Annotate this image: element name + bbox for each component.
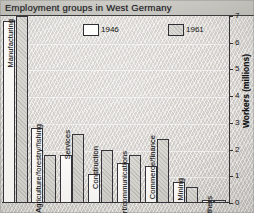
y-axis-tick-label: 5 (235, 64, 239, 73)
bar-1961-agriculture-forestry-fishing[interactable] (44, 155, 56, 203)
y-axis-tick-label: 6 (235, 38, 239, 47)
bar-1961-construction[interactable] (101, 150, 113, 203)
bar-1961-commerce-finance[interactable] (157, 139, 169, 203)
y-axis-tick (229, 69, 233, 70)
y-axis-tick (229, 43, 233, 44)
y-axis-tick (229, 176, 233, 177)
y-axis-tick (229, 16, 233, 17)
gridline (2, 43, 226, 45)
category-label-services: Services (63, 130, 72, 159)
legend-label-1961: 1961 (186, 25, 204, 34)
chart-figure: Employment groups in West Germany Worker… (0, 0, 254, 213)
category-label-commerce-finance: Commerce/finance (148, 135, 157, 199)
legend-swatch-1946 (83, 24, 99, 36)
y-axis-tick-label: 1 (235, 171, 239, 180)
chart-title: Employment groups in West Germany (5, 2, 172, 13)
category-label-transport-communications: Transport/communications (120, 151, 129, 213)
y-axis-tick-label: 2 (235, 145, 239, 154)
category-label-manufacturing: Manufacturing (6, 19, 15, 68)
category-label-others: Others (205, 196, 214, 213)
category-label-construction: Construction (91, 146, 100, 189)
chart-title-bar: Employment groups in West Germany (0, 0, 254, 16)
bar-1961-others[interactable] (214, 200, 226, 203)
bar-1961-mining[interactable] (186, 187, 198, 203)
y-axis-tick (229, 150, 233, 151)
y-axis-tick-label: 4 (235, 91, 239, 100)
bar-1961-transport-communications[interactable] (129, 155, 141, 203)
y-axis-tick-label: 0 (235, 198, 239, 207)
gridline (2, 96, 226, 98)
y-axis-title: Workers (millions) (241, 54, 251, 128)
y-axis-tick (229, 96, 233, 97)
bar-1946-services[interactable] (60, 155, 72, 203)
legend-swatch-1961 (168, 24, 184, 36)
bar-1961-manufacturing[interactable] (16, 16, 28, 203)
gridline (2, 69, 226, 71)
y-axis-tick (229, 123, 233, 124)
bar-1961-services[interactable] (72, 134, 84, 203)
legend-label-1946: 1946 (101, 25, 119, 34)
category-label-mining: Mining (176, 178, 185, 201)
y-axis-tick (229, 203, 233, 204)
y-axis-tick-label: 7 (235, 11, 239, 20)
category-label-agriculture-forestry-fishing: Agriculture/forestry/fishing (34, 124, 43, 213)
y-axis-tick-label: 3 (235, 118, 239, 127)
